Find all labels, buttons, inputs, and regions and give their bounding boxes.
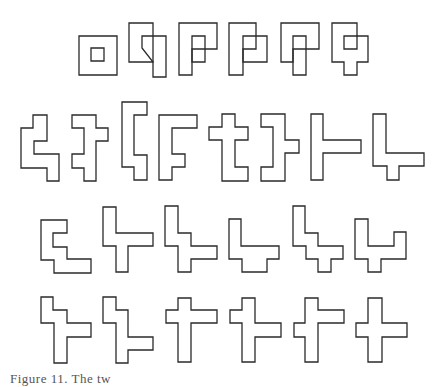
shape-outline <box>355 219 406 272</box>
polyomino-shape <box>294 298 344 362</box>
polyomino-shape <box>41 297 91 363</box>
row-3 <box>41 206 406 273</box>
row-1 <box>79 23 368 77</box>
shape-outline <box>293 206 343 272</box>
polyomino-shape <box>209 114 248 181</box>
shape-outline <box>230 298 281 362</box>
polyomino-shape <box>311 114 361 180</box>
polyomino-shape <box>165 206 217 272</box>
polyomino-shape <box>373 114 424 180</box>
polyomino-shape <box>129 23 166 77</box>
row-4 <box>41 297 407 363</box>
polyomino-shape <box>293 206 343 272</box>
polyomino-shape <box>179 23 217 75</box>
polyomino-shape <box>281 23 319 75</box>
shape-outline <box>103 207 153 272</box>
shape-outline <box>293 36 306 75</box>
shape-outline <box>165 206 217 272</box>
shape-outline <box>129 23 153 62</box>
shape-outline <box>159 115 197 180</box>
polyomino-shape <box>230 298 281 362</box>
polyomino-shape <box>261 114 299 181</box>
polyomino-shape <box>229 23 267 75</box>
shape-outline <box>281 23 319 62</box>
polyomino-shape <box>79 36 117 75</box>
shape-outline <box>229 219 279 272</box>
shape-outline <box>356 298 407 362</box>
shape-outline <box>79 36 117 75</box>
shape-outline <box>142 36 166 77</box>
shape-outline <box>103 297 153 363</box>
shape-outline <box>122 102 147 180</box>
polyomino-shape <box>159 115 197 180</box>
polyomino-shape <box>355 219 406 272</box>
shape-outline <box>166 298 217 362</box>
shape-outline <box>72 115 108 181</box>
shape-outline <box>261 114 299 181</box>
polyomino-shape <box>21 115 59 181</box>
shape-outline <box>311 114 361 180</box>
shape-outline <box>209 114 248 181</box>
polyomino-shape <box>103 207 153 272</box>
shape-outline <box>21 115 59 181</box>
row-2 <box>21 102 424 181</box>
shape-outline <box>344 36 357 49</box>
polyomino-shape <box>103 297 153 363</box>
polyomino-shape <box>356 298 407 362</box>
figure-caption: Figure 11. The tw <box>10 371 111 387</box>
polyomino-shape <box>166 298 217 362</box>
shape-outline <box>91 48 104 61</box>
shape-outline <box>179 23 217 75</box>
shape-outline <box>41 220 91 273</box>
polyomino-shape <box>229 219 279 272</box>
shape-outline <box>294 298 344 362</box>
shape-outline <box>41 297 91 363</box>
polyomino-shape <box>72 115 108 181</box>
shape-outline <box>373 114 424 180</box>
polyomino-shape <box>332 23 368 75</box>
polyomino-shape <box>41 220 91 273</box>
polyomino-shape <box>122 102 147 180</box>
